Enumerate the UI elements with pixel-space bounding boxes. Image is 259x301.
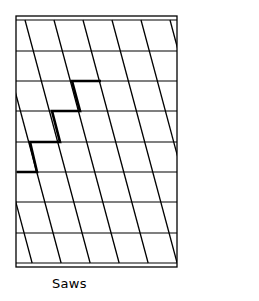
saws-pattern-diagram: [0, 0, 259, 301]
highlighted-staircase-path: [17, 81, 101, 172]
saw-slant-line: [0, 20, 3, 263]
saw-slant-line: [170, 20, 235, 263]
pattern-caption: Saws: [52, 276, 87, 291]
